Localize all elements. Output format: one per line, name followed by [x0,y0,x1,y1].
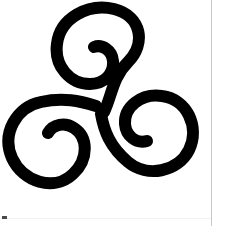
triskelion-symbol: Triskelion (triple spiral) symbol [0,0,226,226]
triskelion-arms-group [8,8,192,184]
page-root: Triskelion (triple spiral) symbol Triske… [0,0,226,226]
right-spiral-arm [101,96,193,171]
bottom-text-sliver [2,216,7,219]
left-spiral-arm [8,100,96,184]
bottom-artifact [0,218,211,219]
right-divider [211,0,212,226]
